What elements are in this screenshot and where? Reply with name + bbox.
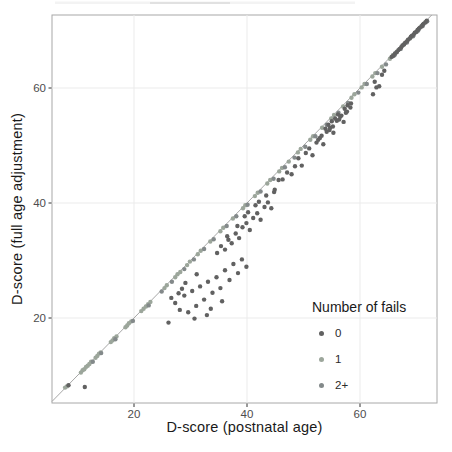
data-point bbox=[99, 351, 103, 355]
data-point bbox=[425, 19, 429, 23]
data-point bbox=[269, 206, 273, 210]
data-point bbox=[326, 123, 330, 127]
data-point bbox=[300, 163, 304, 167]
data-point bbox=[209, 307, 213, 311]
data-point bbox=[192, 257, 196, 261]
data-point bbox=[236, 271, 240, 275]
data-point bbox=[271, 177, 275, 181]
data-point bbox=[276, 178, 280, 182]
data-point bbox=[323, 127, 327, 131]
data-point bbox=[244, 221, 248, 225]
data-point bbox=[165, 283, 169, 287]
data-point bbox=[341, 120, 345, 124]
data-point bbox=[240, 257, 244, 261]
data-point bbox=[375, 71, 379, 75]
data-point bbox=[190, 289, 194, 293]
data-point bbox=[244, 265, 248, 269]
data-point bbox=[234, 231, 238, 235]
legend-dot-1-icon bbox=[319, 357, 324, 362]
data-point bbox=[185, 263, 189, 267]
data-point bbox=[307, 146, 311, 150]
data-point bbox=[166, 320, 170, 324]
data-point bbox=[210, 291, 214, 295]
data-point bbox=[333, 116, 337, 120]
data-point bbox=[310, 153, 314, 157]
data-point bbox=[160, 289, 164, 293]
data-point bbox=[337, 117, 341, 121]
data-point bbox=[289, 172, 293, 176]
data-point bbox=[373, 80, 377, 84]
data-point bbox=[245, 203, 249, 207]
data-point bbox=[371, 92, 375, 96]
data-point bbox=[237, 236, 241, 240]
data-point bbox=[287, 159, 291, 163]
data-point bbox=[272, 190, 276, 194]
data-point bbox=[293, 164, 297, 168]
data-point bbox=[316, 138, 320, 142]
data-point bbox=[206, 280, 210, 284]
data-point bbox=[292, 155, 296, 159]
data-point bbox=[255, 211, 259, 215]
data-point bbox=[313, 134, 317, 138]
data-point bbox=[257, 200, 261, 204]
data-point bbox=[192, 316, 196, 320]
data-point bbox=[280, 177, 284, 181]
data-point bbox=[308, 138, 312, 142]
legend-item-0-fails: 0 bbox=[312, 320, 406, 346]
data-point bbox=[176, 291, 180, 295]
data-point bbox=[169, 296, 173, 300]
data-point bbox=[131, 319, 135, 323]
data-point bbox=[285, 170, 289, 174]
legend-item-label: 0 bbox=[335, 327, 341, 339]
data-point bbox=[223, 268, 227, 272]
data-point bbox=[195, 272, 199, 276]
data-point bbox=[262, 205, 266, 209]
data-point bbox=[251, 216, 255, 220]
data-point bbox=[344, 111, 348, 115]
x-axis-title: D-score (postnatal age) bbox=[52, 419, 437, 435]
data-point bbox=[331, 124, 335, 128]
data-point bbox=[296, 156, 300, 160]
data-point bbox=[352, 92, 356, 96]
legend-item-label: 1 bbox=[335, 353, 341, 365]
data-point bbox=[258, 218, 262, 222]
data-point bbox=[266, 200, 270, 204]
data-point bbox=[214, 275, 218, 279]
data-point bbox=[377, 84, 381, 88]
data-point bbox=[113, 337, 117, 341]
data-point bbox=[178, 270, 182, 274]
data-point bbox=[265, 181, 269, 185]
data-point bbox=[349, 96, 353, 100]
data-point bbox=[218, 286, 222, 290]
data-point bbox=[91, 360, 95, 364]
data-point bbox=[258, 189, 262, 193]
data-point bbox=[66, 383, 70, 387]
data-point bbox=[218, 229, 222, 233]
data-point bbox=[182, 293, 186, 297]
data-point bbox=[235, 224, 239, 228]
scatter-figure: 204060204060 D-score (postnatal age) D-s… bbox=[0, 0, 452, 452]
data-point bbox=[253, 194, 257, 198]
data-point bbox=[212, 237, 216, 241]
data-point bbox=[205, 313, 209, 317]
data-point bbox=[202, 297, 206, 301]
data-point bbox=[384, 62, 388, 66]
y-tick-label: 40 bbox=[33, 197, 46, 209]
data-point bbox=[264, 193, 268, 197]
data-point bbox=[186, 310, 190, 314]
data-point bbox=[220, 299, 224, 303]
y-tick-label: 60 bbox=[33, 82, 46, 94]
data-point bbox=[248, 228, 252, 232]
data-point bbox=[170, 280, 174, 284]
legend-dot-2plus-icon bbox=[319, 383, 324, 388]
data-point bbox=[231, 262, 235, 266]
data-point bbox=[319, 134, 323, 138]
scan-artifact bbox=[150, 2, 230, 4]
data-point bbox=[215, 251, 219, 255]
data-point bbox=[331, 131, 335, 135]
data-point bbox=[183, 281, 187, 285]
legend-item-2plus-fails: 2+ bbox=[312, 372, 406, 398]
data-point bbox=[227, 278, 231, 282]
data-point bbox=[321, 142, 325, 146]
legend-item-1-fail: 1 bbox=[312, 346, 406, 372]
